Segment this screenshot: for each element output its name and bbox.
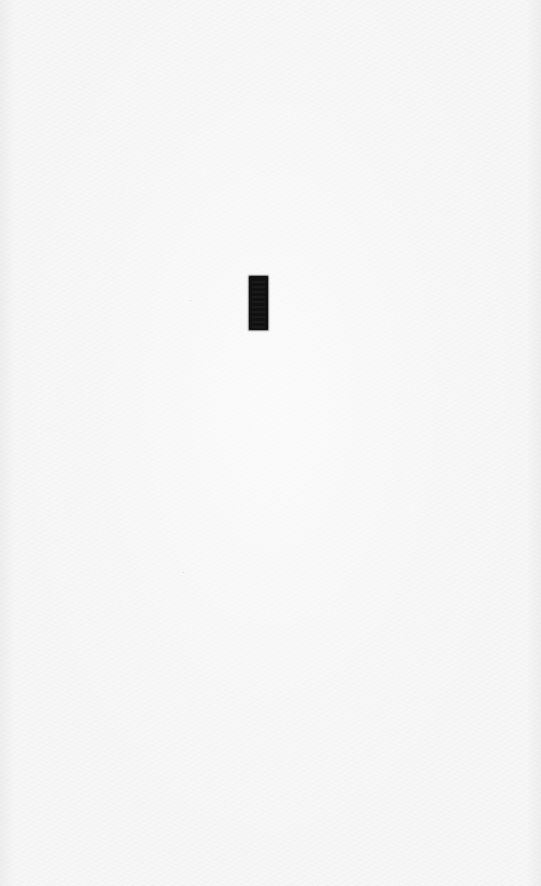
paper-speck (190, 300, 191, 301)
blank-page (0, 0, 541, 886)
ink-mark (249, 276, 268, 330)
ink-mark-texture (252, 278, 265, 328)
paper-speck (183, 572, 184, 573)
